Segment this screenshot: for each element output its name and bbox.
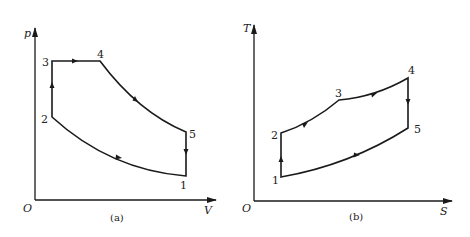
pv-diagram: p V O 3 4 2 5 1 (a): [23, 27, 216, 223]
ts-diagram: T S O 1 2 3 4 5 (b): [242, 22, 452, 222]
arrow-2-3-icon: [50, 82, 55, 88]
arrow-1-2-icon: [279, 156, 284, 162]
point-1-label: 1: [180, 179, 187, 192]
arrow-3-4-icon: [72, 59, 78, 64]
point-5-label: 5: [189, 128, 196, 141]
arrow-3-4-icon: [371, 93, 377, 98]
caption-a: (a): [110, 212, 124, 223]
caption-b: (b): [349, 211, 363, 222]
point-1-label: 1: [272, 174, 279, 187]
ts-cycle-path: [281, 78, 408, 177]
t-axis-label: T: [243, 22, 252, 35]
point-2-label: 2: [271, 129, 278, 142]
point-3-label: 3: [335, 87, 342, 100]
cycle-diagrams: p V O 3 4 2 5 1 (a) T S O 1 2 3 4 5 (b): [0, 0, 470, 237]
point-2-label: 2: [41, 113, 48, 126]
point-3-label: 3: [42, 56, 49, 69]
v-axis-label: V: [204, 204, 213, 217]
point-4-label: 4: [408, 64, 415, 77]
point-5-label: 5: [414, 123, 421, 136]
s-axis-label: S: [440, 205, 448, 218]
arrow-4-5-icon: [406, 99, 411, 105]
arrow-1-2-icon: [116, 155, 123, 160]
p-axis-label: p: [24, 27, 31, 40]
pv-cycle-path: [52, 61, 186, 176]
arrow-2-3-icon: [302, 122, 308, 128]
origin-label: O: [242, 202, 251, 215]
point-4-label: 4: [97, 48, 104, 61]
origin-label: O: [23, 202, 32, 215]
arrow-5-1-icon: [184, 149, 189, 155]
